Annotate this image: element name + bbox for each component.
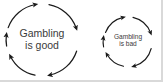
label-line-1: Gambling — [8, 28, 76, 40]
right-edge-shade — [161, 0, 163, 82]
label-line-2: is bad — [104, 40, 152, 47]
arc-arrow-top-left — [106, 17, 124, 32]
diagram-canvas: Gambling is good Gambling is bad — [0, 0, 163, 82]
label-gambling-is-bad: Gambling is bad — [104, 33, 152, 48]
arc-arrow-bottom-left — [11, 57, 36, 76]
arc-arrow-bottom-right — [134, 49, 151, 67]
arc-arrow-top-left — [8, 5, 35, 28]
arc-arrow-left — [6, 35, 7, 46]
arc-arrow-top-right — [133, 17, 151, 32]
arc-arrow-bottom-right — [50, 51, 77, 75]
label-gambling-is-good: Gambling is good — [8, 28, 76, 52]
label-line-1: Gambling — [104, 33, 152, 40]
arc-arrow-top-right — [49, 5, 76, 28]
bottom-edge-shade — [0, 80, 163, 82]
label-line-2: is good — [8, 40, 76, 52]
arc-arrow-bottom-left — [107, 55, 124, 67]
